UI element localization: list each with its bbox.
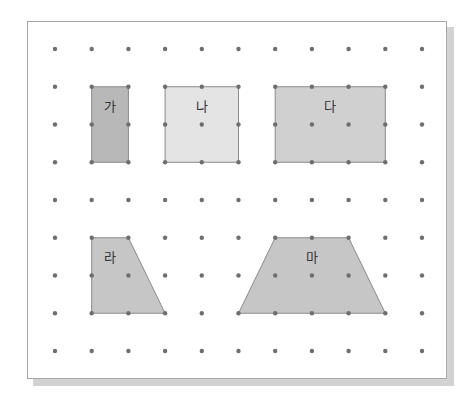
grid-dot [53,236,57,240]
grid-dot [90,349,94,353]
grid-dot [310,349,314,353]
grid-dot [90,198,94,202]
grid-dot [383,273,387,277]
grid-dot [163,85,167,89]
grid-dot [163,311,167,315]
grid-dot [236,349,240,353]
grid-dot [383,160,387,164]
grid-dot [236,273,240,277]
grid-dot [236,85,240,89]
grid-dot [126,160,130,164]
grid-dot [273,236,277,240]
grid-dot [273,122,277,126]
grid-dot [420,273,424,277]
grid-dot [420,198,424,202]
grid-dot [90,47,94,51]
grid-dot [200,122,204,126]
grid-dot [236,236,240,240]
grid-dot [420,85,424,89]
grid-dot [126,349,130,353]
grid-dot [126,47,130,51]
grid-dot [90,85,94,89]
grid-dot [90,236,94,240]
grid-dot [90,160,94,164]
grid-dot [273,311,277,315]
shape-label: 마 [306,250,318,265]
grid-dot [53,273,57,277]
grid-dot [200,198,204,202]
grid-dot [163,47,167,51]
grid-dot [310,236,314,240]
grid-dot [236,311,240,315]
grid-dot [53,311,57,315]
grid-dot [383,311,387,315]
grid-dot [273,273,277,277]
grid-dot [200,47,204,51]
grid-dot [163,122,167,126]
grid-dot [126,273,130,277]
grid-dot [236,160,240,164]
grid-dot [310,160,314,164]
grid-dot [236,198,240,202]
grid-dot [383,236,387,240]
grid-dot [346,273,350,277]
grid-dot [346,85,350,89]
grid-dot [53,85,57,89]
grid-dot [420,311,424,315]
grid-dot [53,122,57,126]
dot-grid-board: 가나다라마 [0,0,475,405]
grid-dot [310,198,314,202]
grid-dot [163,273,167,277]
shape-label: 나 [196,99,208,114]
grid-dot [310,47,314,51]
shape-label: 라 [104,250,116,265]
grid-dot [126,198,130,202]
grid-dot [310,311,314,315]
grid-dot [200,160,204,164]
grid-dot [346,160,350,164]
grid-dot [420,349,424,353]
grid-dot [126,85,130,89]
grid-dot [163,349,167,353]
grid-dot [273,160,277,164]
grid-dot [200,85,204,89]
grid-dot [163,236,167,240]
grid-dot [273,47,277,51]
grid-dot [383,47,387,51]
grid-dot [420,236,424,240]
grid-dot [200,236,204,240]
grid-dot [53,160,57,164]
grid-dot [273,198,277,202]
grid-dot [90,311,94,315]
grid-dot [346,311,350,315]
grid-dot [346,198,350,202]
grid-dot [126,236,130,240]
grid-dot [200,349,204,353]
grid-dot [163,198,167,202]
grid-dot [236,47,240,51]
grid-dot [53,349,57,353]
grid-dot [126,122,130,126]
grid-dot [346,47,350,51]
grid-dot [383,122,387,126]
grid-dot [200,311,204,315]
grid-dot [310,122,314,126]
grid-dot [383,198,387,202]
grid-dot [420,122,424,126]
grid-dot [200,273,204,277]
grid-dot [383,85,387,89]
grid-dot [420,160,424,164]
grid-dot [273,349,277,353]
grid-dot [383,349,387,353]
grid-dot [273,85,277,89]
shape-label: 가 [104,99,116,114]
grid-dot [346,122,350,126]
grid-dot [53,47,57,51]
grid-dot [310,273,314,277]
grid-dot [346,236,350,240]
grid-dot [346,349,350,353]
grid-dot [420,47,424,51]
shape-label: 다 [324,99,336,114]
grid-dot [53,198,57,202]
grid-dot [126,311,130,315]
